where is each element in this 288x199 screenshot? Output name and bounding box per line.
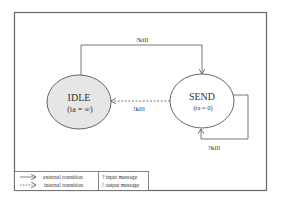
state-send-ta: (ta = 0) (193, 104, 212, 112)
state-idle-ta: (ta = ∞) (67, 105, 93, 114)
transition-label-top: ?kill (136, 36, 148, 44)
legend-output-label: ! output message (102, 182, 140, 188)
state-send: SEND (ta = 0) (170, 74, 234, 128)
legend-external-label: external transition (43, 174, 83, 180)
state-idle: IDLE (ta = ∞) (47, 75, 111, 129)
legend: external transition internal transition … (15, 172, 149, 191)
state-diagram: ?kill !kill ?kill IDLE (ta = ∞) SEND (ta… (0, 0, 288, 199)
legend-internal-label: internal transition (44, 182, 83, 188)
legend-input-label: ? input message (102, 174, 138, 180)
transition-label-loop: ?kill (208, 144, 220, 152)
state-send-name: SEND (189, 91, 215, 102)
state-idle-name: IDLE (68, 92, 91, 103)
transition-label-middle: !kill (133, 105, 145, 113)
